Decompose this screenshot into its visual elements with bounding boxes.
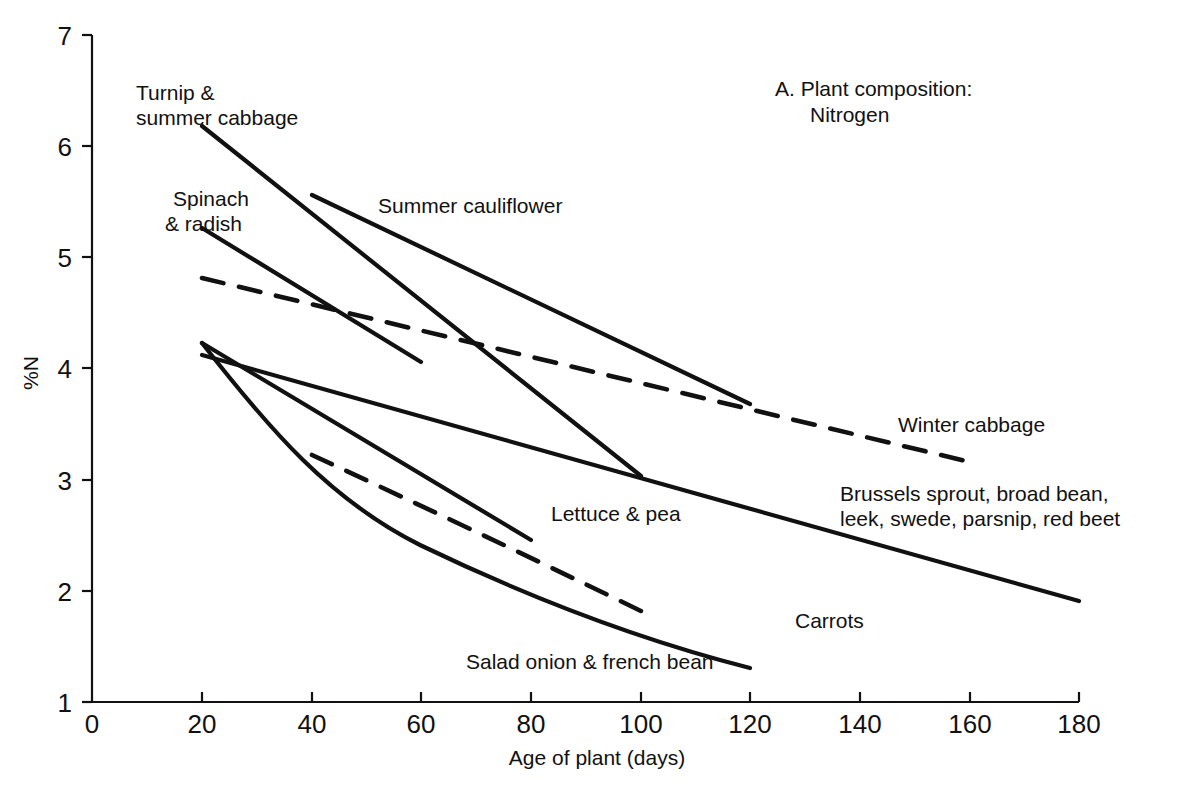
panel-title-line-2: Nitrogen — [810, 103, 889, 126]
x-tick-label-0: 0 — [85, 709, 99, 739]
x-tick-label-40: 40 — [298, 709, 327, 739]
x-tick-label-140: 140 — [838, 709, 881, 739]
chart-container: 7 6 5 4 3 2 1 0 20 40 60 80 100 120 1 — [0, 0, 1185, 803]
label-winter-cabbage: Winter cabbage — [898, 413, 1045, 436]
label-turnip-line-2: summer cabbage — [136, 106, 298, 129]
x-tick-label-180: 180 — [1057, 709, 1100, 739]
label-brussels-line-2: leek, swede, parsnip, red beet — [840, 507, 1120, 530]
label-turnip-line-1: Turnip & — [136, 81, 215, 104]
y-tick-label-4: 4 — [58, 354, 72, 384]
label-spinach-line-1: Spinach — [173, 187, 249, 210]
y-tick-label-2: 2 — [58, 577, 72, 607]
x-tick-label-20: 20 — [188, 709, 217, 739]
label-brussels-line-1: Brussels sprout, broad bean, — [840, 482, 1109, 505]
nitrogen-line-chart: 7 6 5 4 3 2 1 0 20 40 60 80 100 120 1 — [0, 0, 1185, 803]
x-axis-title: Age of plant (days) — [509, 746, 685, 769]
y-tick-label-1: 1 — [58, 688, 72, 718]
y-tick-label-6: 6 — [58, 132, 72, 162]
panel-title-line-1: A. Plant composition: — [775, 77, 972, 100]
x-tick-label-60: 60 — [407, 709, 436, 739]
label-carrots: Carrots — [795, 609, 864, 632]
series-line-spinach-radish — [202, 228, 421, 362]
y-tick-label-5: 5 — [58, 243, 72, 273]
label-summer-cauliflower: Summer cauliflower — [378, 194, 562, 217]
series-line-brussels-group — [202, 355, 1079, 601]
label-lettuce-pea: Lettuce & pea — [551, 502, 681, 525]
label-spinach-line-2: & radish — [165, 212, 242, 235]
series-group — [202, 126, 1079, 668]
panel-title-group: A. Plant composition: Nitrogen — [775, 77, 972, 126]
label-salad-onion-french-bean: Salad onion & french bean — [466, 650, 714, 673]
x-tick-label-160: 160 — [948, 709, 991, 739]
x-tick-label-80: 80 — [517, 709, 546, 739]
series-line-summer-cauliflower — [312, 195, 750, 404]
series-line-carrots — [312, 455, 641, 611]
y-tick-label-3: 3 — [58, 466, 72, 496]
x-tick-label-120: 120 — [728, 709, 771, 739]
y-axis-title: %N — [19, 356, 42, 390]
y-tick-label-7: 7 — [58, 21, 72, 51]
x-tick-label-100: 100 — [619, 709, 662, 739]
